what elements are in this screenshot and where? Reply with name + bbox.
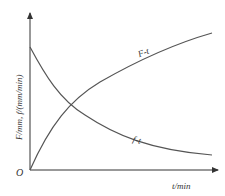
curve-F-t — [30, 33, 212, 170]
chart: F-t f-t O t/min F/mm, f/(mm/min) — [0, 0, 225, 196]
f-t-label: f-t — [132, 134, 143, 146]
x-axis-label: t/min — [172, 181, 191, 191]
y-axis-label: F/mm, f/(mm/min) — [14, 75, 24, 142]
curve-f-t — [30, 47, 212, 155]
origin-label: O — [16, 167, 23, 178]
